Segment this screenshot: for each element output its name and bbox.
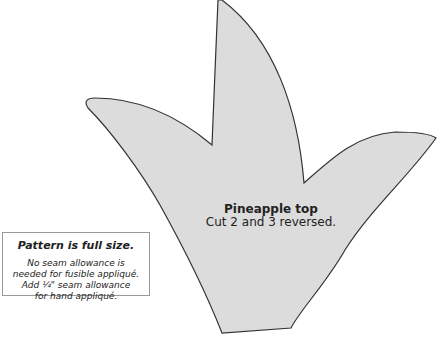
note-line: for hand appliqué. — [3, 291, 149, 302]
note-line: needed for fusible appliqué. — [3, 269, 149, 280]
pattern-note-box: Pattern is full size. No seam allowance … — [2, 232, 150, 296]
note-heading: Pattern is full size. — [3, 239, 149, 252]
note-body: No seam allowance is needed for fusible … — [3, 258, 149, 302]
shape-label: Pineapple top Cut 2 and 3 reversed. — [196, 203, 346, 229]
shape-instruction: Cut 2 and 3 reversed. — [196, 216, 346, 229]
note-line: No seam allowance is — [3, 258, 149, 269]
note-line: Add ¼" seam allowance — [3, 280, 149, 291]
